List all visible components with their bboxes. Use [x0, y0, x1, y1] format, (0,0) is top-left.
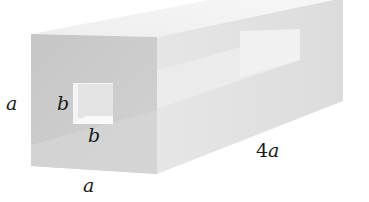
- outer-height-label: a: [6, 94, 17, 113]
- length-coefficient: 4: [256, 139, 268, 161]
- length-label: 4a: [256, 141, 279, 160]
- bar-drawing: [0, 0, 369, 202]
- diagram-canvas: a b b a 4a: [0, 0, 369, 202]
- hole-width-label: b: [88, 126, 100, 145]
- outer-width-label: a: [83, 176, 94, 195]
- length-variable: a: [268, 139, 279, 161]
- hole-height-label: b: [57, 94, 69, 113]
- square-hole-inner-shadow: [78, 84, 113, 118]
